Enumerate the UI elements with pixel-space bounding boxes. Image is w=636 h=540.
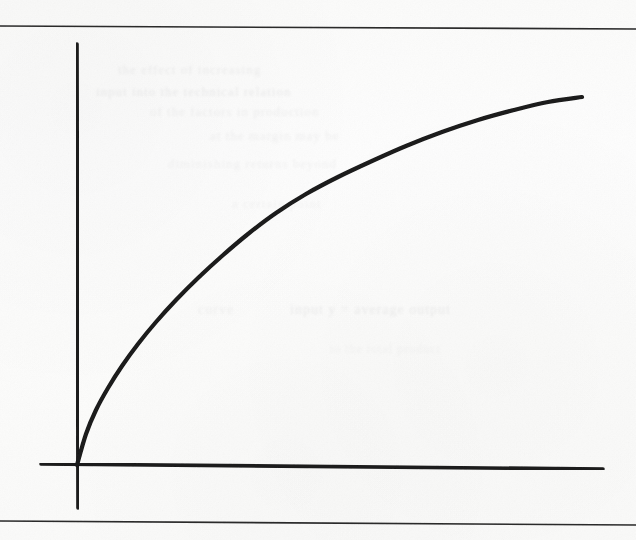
x-axis [41,464,603,469]
top-rule [0,26,636,29]
y-axis [77,44,78,508]
scanned-page: the effect of increasinginput into the t… [0,0,636,540]
figure-graphic [0,0,636,540]
diminishing-returns-curve [77,97,582,465]
bottom-rule [0,521,636,525]
